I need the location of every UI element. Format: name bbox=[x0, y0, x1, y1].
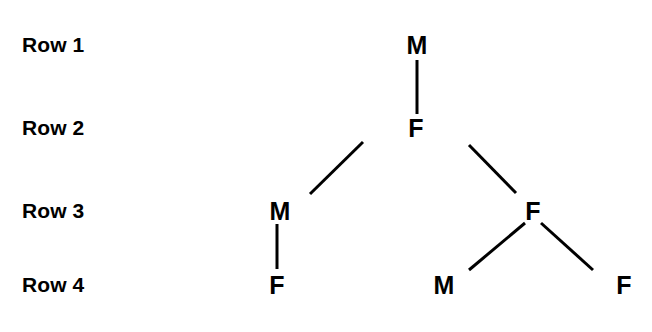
edge-n2-n3 bbox=[310, 142, 363, 194]
node-row3-female: F bbox=[525, 199, 540, 224]
row-label-1: Row 1 bbox=[22, 33, 84, 57]
node-row3-male: M bbox=[270, 199, 291, 224]
node-row4-female-right: F bbox=[616, 273, 631, 298]
node-row2-female: F bbox=[408, 116, 423, 141]
node-row4-male: M bbox=[434, 273, 455, 298]
node-row4-female-left: F bbox=[269, 273, 284, 298]
row-label-3: Row 3 bbox=[22, 199, 84, 223]
row-label-4: Row 4 bbox=[22, 273, 84, 297]
edge-n4-n7 bbox=[541, 223, 593, 270]
edge-layer bbox=[0, 0, 652, 332]
pedigree-diagram: Row 1 Row 2 Row 3 Row 4 M F M F F M F bbox=[0, 0, 652, 332]
edge-n2-n4 bbox=[469, 145, 516, 193]
row-label-2: Row 2 bbox=[22, 116, 84, 140]
node-row1-male: M bbox=[407, 33, 428, 58]
edge-n4-n6 bbox=[469, 223, 525, 270]
